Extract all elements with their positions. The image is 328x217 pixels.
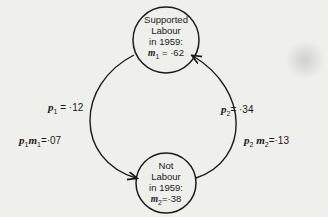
product-p2m2-label: p2 m2=·13 xyxy=(244,134,289,148)
node-not: Not Labour in 1959: m2=·38 xyxy=(133,160,199,208)
edge-p2-arrow xyxy=(193,56,236,178)
node-line: Labour xyxy=(133,171,199,182)
paper-smudge xyxy=(285,40,325,80)
node-value: m1 = ·62 xyxy=(133,47,199,62)
node-line: Labour xyxy=(133,25,199,36)
node-line: in 1959: xyxy=(133,36,199,47)
node-line: Not xyxy=(133,160,199,171)
node-line: Supported xyxy=(133,14,199,25)
product-p1m1-label: p1m1=·07 xyxy=(19,134,61,148)
edge-p1-label: p1 = ·12 xyxy=(48,101,83,115)
node-line: in 1959: xyxy=(133,182,199,193)
edge-p2-label: p2= ·34 xyxy=(221,103,253,117)
edge-p1-arrow xyxy=(90,55,136,178)
node-value: m2=·38 xyxy=(133,193,199,208)
diagram-canvas: Supported Labour in 1959: m1 = ·62 Not L… xyxy=(0,0,328,217)
node-supported: Supported Labour in 1959: m1 = ·62 xyxy=(133,14,199,62)
